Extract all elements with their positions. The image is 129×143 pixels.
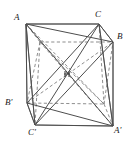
vertex-label-C-prime: C' [28, 128, 36, 137]
vertex-label-B: B [117, 32, 123, 41]
hidden-diagonal-front-top-right-to-back-bottom-right [99, 24, 104, 104]
hidden-edge-back-bottom-left-to-back-bottom-right [27, 103, 104, 104]
vertex-label-A: A [14, 13, 20, 22]
tetra-edge-C-to-Bprime [27, 24, 99, 103]
tetra-edge-Cprime-to-Aprime [35, 125, 113, 126]
tetra-edge-A-to-Cprime [26, 24, 35, 125]
tetra-edge-Bprime-to-Aprime [27, 103, 113, 126]
vertex-label-A-prime: A' [114, 126, 121, 135]
vertex-label-C: C [95, 10, 101, 19]
vertex-label-B-prime: B' [5, 98, 12, 107]
hidden-diagonal-back-bottom-left-to-back-top-right [27, 42, 113, 103]
